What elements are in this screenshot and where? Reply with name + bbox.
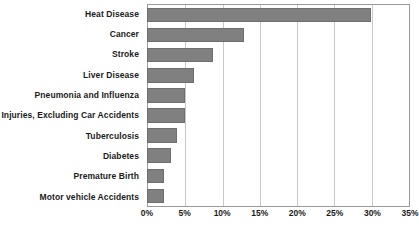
bar[interactable] xyxy=(147,28,244,42)
bar[interactable] xyxy=(147,48,213,62)
bar-row xyxy=(148,166,409,186)
value-tick-label: 30% xyxy=(364,209,381,218)
category-label: Premature Birth xyxy=(0,166,143,186)
category-label: Heat Disease xyxy=(0,4,143,24)
category-label: Liver Disease xyxy=(0,65,143,85)
value-tick-label: 0% xyxy=(141,209,153,218)
bar-row xyxy=(148,65,409,85)
value-tick-label: 10% xyxy=(214,209,231,218)
category-label: Injuries, Excluding Car Accidents xyxy=(0,105,143,125)
bar-row xyxy=(148,25,409,45)
value-tick-label: 25% xyxy=(326,209,343,218)
category-label: Pneumonia and Influenza xyxy=(0,85,143,105)
category-label: Tuberculosis xyxy=(0,126,143,146)
category-label: Stroke xyxy=(0,45,143,65)
bars-layer xyxy=(148,5,409,206)
bar[interactable] xyxy=(147,169,164,183)
value-tick-label: 15% xyxy=(251,209,268,218)
value-axis: 0%5%10%15%20%25%30%35% xyxy=(147,209,410,225)
bar-row xyxy=(148,5,409,25)
plot-area xyxy=(147,4,410,207)
bar-row xyxy=(148,186,409,206)
bar[interactable] xyxy=(147,68,194,82)
bar-row xyxy=(148,105,409,125)
bar[interactable] xyxy=(147,128,177,142)
category-label: Motor vehicle Accidents xyxy=(0,187,143,207)
bar-row xyxy=(148,45,409,65)
bar-row xyxy=(148,126,409,146)
bar-row xyxy=(148,85,409,105)
category-label: Diabetes xyxy=(0,146,143,166)
bar-row xyxy=(148,146,409,166)
value-tick-label: 5% xyxy=(178,209,190,218)
bar[interactable] xyxy=(147,148,171,162)
bar[interactable] xyxy=(147,8,371,22)
value-tick-label: 20% xyxy=(289,209,306,218)
bar[interactable] xyxy=(147,88,185,102)
category-axis: Heat Disease Cancer Stroke Liver Disease… xyxy=(0,4,143,207)
bar[interactable] xyxy=(147,189,164,203)
bar[interactable] xyxy=(147,108,185,122)
category-label: Cancer xyxy=(0,24,143,44)
value-tick-label: 35% xyxy=(401,209,418,218)
